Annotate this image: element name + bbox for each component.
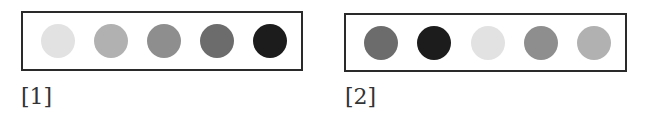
panel-label-1: [1] (21, 86, 52, 108)
circle-2-5 (577, 26, 611, 60)
panel-label-2: [2] (345, 86, 376, 108)
circle-1-3 (147, 24, 181, 58)
circle-1-1 (41, 24, 75, 58)
circle-1-2 (94, 24, 128, 58)
circle-2-2 (417, 26, 451, 60)
circle-2-3 (471, 26, 505, 60)
circle-1-4 (200, 24, 234, 58)
circle-2-4 (524, 26, 558, 60)
circle-1-5 (253, 24, 287, 58)
circle-2-1 (364, 26, 398, 60)
sequence-panel-2 (344, 13, 627, 72)
sequence-panel-1 (21, 11, 303, 71)
